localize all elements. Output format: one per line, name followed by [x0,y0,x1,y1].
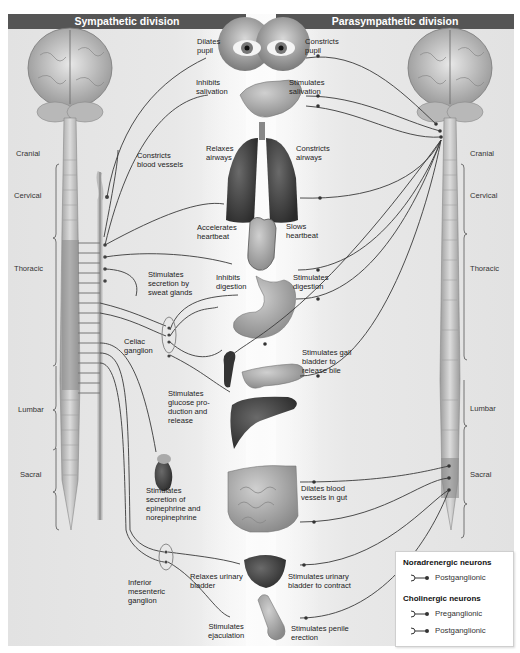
legend-cholinergic-postganglionic: Postganglionic [410,626,486,635]
legend-noradrenergic-title: Noradrenergic neurons [403,558,491,567]
region-thoracic-left: Thoracic [14,264,43,273]
label-stimulates-digestion: Stimulates digestion [293,273,328,291]
label-constricts-airways: Constricts airways [296,144,330,162]
label-inhibits-salivation: Inhibits salivation [196,78,228,96]
lungs [226,122,298,223]
legend: Noradrenergic neurons Postganglionic Cho… [395,551,514,647]
synapse-icon [410,627,432,635]
penis [258,595,285,640]
label-stimulates-ejaculation: Stimulates ejaculation [208,622,244,640]
region-sacral-left: Sacral [20,470,42,479]
legend-noradrenergic-postganglionic: Postganglionic [410,573,486,582]
label-accelerates-heartbeat: Accelerates heartbeat [197,223,237,241]
urinary-bladder [244,555,286,588]
label-glucose-production: Stimulates glucose pro- duction and rele… [168,389,210,425]
legend-cholinergic-title: Cholinergic neurons [403,594,481,603]
legend-cholinergic-preganglionic: Preganglionic [410,609,482,618]
label-stimulates-salivation: Stimulates salivation [289,78,324,96]
label-epinephrine-secretion: Stimulates secretion of epinephrine and … [146,486,200,522]
label-relaxes-airways: Relaxes airways [206,144,233,162]
label-bladder-contract: Stimulates urinary bladder to contract [288,572,351,590]
region-cranial-left: Cranial [16,149,40,158]
label-inhibits-digestion: Inhibits digestion [216,273,246,291]
liver [230,397,297,449]
label-dilates-gut-vessels: Dilates blood vessels in gut [301,484,347,502]
label-slows-heartbeat: Slows heartbeat [286,222,318,240]
region-cervical-right: Cervical [470,191,497,200]
label-relaxes-bladder: Relaxes urinary bladder [190,572,243,590]
eyes [218,17,310,71]
region-cranial-right: Cranial [470,149,494,158]
label-penile-erection: Stimulates penile erection [291,624,349,642]
label-dilates-pupil: Dilates pupil [197,37,220,55]
synapse-icon [410,574,432,582]
label-constricts-pupil: Constricts pupil [305,37,339,55]
brain-right [408,28,492,122]
pancreas [242,364,304,388]
brain-left [28,28,112,122]
region-lumbar-right: Lumbar [470,404,496,413]
label-sweat-glands: Stimulates secretion by sweat glands [148,270,192,297]
label-constricts-blood-vessels: Constricts blood vessels [137,151,183,169]
gallbladder [224,351,236,387]
label-gall-bladder: Stimulates gall bladder to release bile [302,348,351,375]
synapse-icon [410,610,432,618]
region-sacral-right: Sacral [470,470,492,479]
region-cervical-left: Cervical [14,191,41,200]
heart [248,217,276,270]
label-inferior-mesenteric-ganglion: Inferior mesenteric ganglion [128,578,165,605]
region-lumbar-left: Lumbar [18,405,44,414]
region-thoracic-right: Thoracic [470,264,499,273]
label-celiac-ganglion: Celiac ganglion [124,337,153,355]
